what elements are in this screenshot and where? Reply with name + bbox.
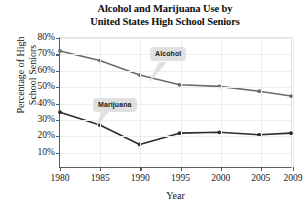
gridline-horizontal — [60, 120, 291, 121]
x-axis-tick-label: 1995 — [171, 173, 190, 183]
chart-container: Alcohol and Marijuana Use by United Stat… — [0, 0, 303, 211]
chart-title: Alcohol and Marijuana Use by United Stat… — [40, 3, 290, 28]
data-point-alcohol — [58, 49, 62, 53]
y-axis-title-line-2: School Seniors — [27, 0, 39, 155]
y-axis-tick — [56, 54, 60, 55]
x-axis-tick — [100, 167, 101, 171]
y-axis-title-line-1: Percentage of High — [15, 0, 27, 155]
x-axis-tick-label: 2005 — [251, 173, 270, 183]
y-axis-tick — [56, 120, 60, 121]
gridline-vertical — [221, 38, 222, 167]
x-axis-tick — [181, 167, 182, 171]
y-axis-tick — [56, 87, 60, 88]
x-axis-tick — [221, 167, 222, 171]
y-axis-tick-label: 40% — [38, 99, 55, 109]
x-axis-title: Year — [59, 190, 292, 201]
y-axis-tick — [56, 153, 60, 154]
gridline-horizontal — [60, 38, 291, 39]
y-axis-tick-label: 60% — [38, 66, 55, 76]
y-axis-tick — [56, 38, 60, 39]
y-axis-tick — [56, 136, 60, 137]
gridline-horizontal — [60, 153, 291, 154]
gridline-horizontal — [60, 136, 291, 137]
x-axis-tick — [140, 167, 141, 171]
gridline-vertical — [293, 38, 294, 167]
y-axis-tick — [56, 71, 60, 72]
annotation-alcohol-label: Alcohol — [155, 50, 181, 57]
y-axis-tick-label: 10% — [38, 148, 55, 158]
x-axis-tick-label: 1980 — [51, 173, 70, 183]
series-line-marijuana — [60, 112, 291, 144]
gridline-horizontal — [60, 71, 291, 72]
x-axis-tick-label: 1985 — [91, 173, 110, 183]
y-axis-tick-label: 80% — [38, 33, 55, 43]
chart-title-line-2: United States High School Seniors — [40, 16, 290, 29]
y-axis-tick-label: 50% — [38, 82, 55, 92]
annotation-marijuana: Marijuana — [93, 98, 137, 112]
data-point-marijuana — [58, 110, 62, 114]
chart-title-line-1: Alcohol and Marijuana Use by — [40, 3, 290, 16]
y-axis-tick-label: 20% — [38, 132, 55, 142]
x-axis-tick-label: 2009 — [284, 173, 303, 183]
x-axis-tick-label: 1990 — [131, 173, 150, 183]
x-axis-tick — [60, 167, 61, 171]
x-axis-tick-label: 2000 — [211, 173, 230, 183]
gridline-horizontal — [60, 87, 291, 88]
gridline-vertical — [261, 38, 262, 167]
y-axis-tick-label: 30% — [38, 115, 55, 125]
x-axis-tick — [293, 167, 294, 171]
y-axis-tick-label: 70% — [38, 50, 55, 60]
gridline-vertical — [140, 38, 141, 167]
x-axis-tick — [261, 167, 262, 171]
annotation-alcohol: Alcohol — [150, 47, 186, 61]
annotation-marijuana-label: Marijuana — [98, 101, 132, 108]
y-axis-tick — [56, 104, 60, 105]
